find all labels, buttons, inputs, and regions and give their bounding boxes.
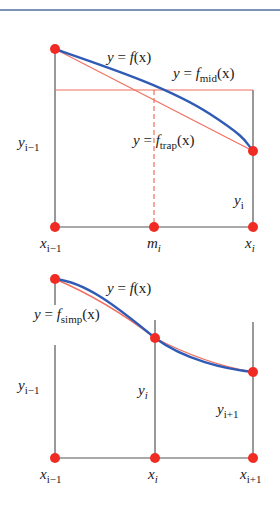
point-right: [248, 146, 258, 156]
label-f-mid: y = fmid(x): [173, 66, 234, 84]
f-simp-curve: [55, 279, 253, 372]
point-right: [248, 367, 258, 377]
label-f-curve-2: y = f(x): [107, 281, 151, 296]
point-top-left: [50, 44, 60, 54]
label-m-i: mi: [147, 236, 161, 254]
label-y-i-minus-1: yi−1: [18, 135, 39, 153]
label-x-i-2: xi: [148, 467, 158, 485]
point-mid: [150, 333, 160, 343]
diagram-canvas: [0, 0, 280, 518]
label-y-i-2: yi: [138, 383, 148, 401]
label-x-i-minus-1-2: xi−1: [40, 467, 61, 485]
point-x-mid: [150, 453, 160, 463]
label-x-i: xi: [245, 236, 255, 254]
point-x-right: [248, 453, 258, 463]
label-x-i-minus-1: xi−1: [40, 236, 61, 254]
panel-simpson: [50, 274, 258, 463]
label-y-i-minus-1-2: yi−1: [18, 378, 39, 396]
label-y-i: yi: [234, 193, 244, 211]
label-f-trap: y = ftrap(x): [133, 133, 194, 151]
point-x-mid: [149, 222, 159, 232]
label-f-simp: y = fsimp(x): [34, 307, 100, 325]
point-x-left: [50, 222, 60, 232]
point-top-left: [50, 274, 60, 284]
point-x-left: [50, 453, 60, 463]
label-x-i-plus-1: xi+1: [240, 467, 261, 485]
label-y-i-plus-1: yi+1: [217, 402, 238, 420]
label-f-curve-1: y = f(x): [107, 50, 151, 65]
point-x-right: [248, 222, 258, 232]
